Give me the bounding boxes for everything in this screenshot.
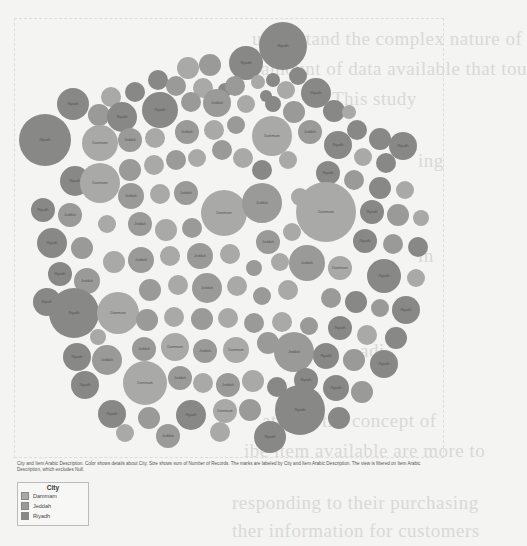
legend-item-riyadh[interactable]: Riyadh <box>18 511 88 521</box>
bubble-mark[interactable] <box>252 160 272 180</box>
bubble-mark[interactable] <box>212 140 232 160</box>
bubble-mark[interactable] <box>164 307 184 327</box>
legend-item-dammam[interactable]: Dammam <box>18 491 88 501</box>
bubble-mark[interactable] <box>300 317 318 335</box>
bubble-mark[interactable] <box>266 73 280 87</box>
bubble-label: Riyadh <box>116 115 127 119</box>
bubble-mark[interactable] <box>148 70 168 90</box>
bubble-mark[interactable] <box>119 159 141 181</box>
bubble-mark[interactable] <box>343 349 365 371</box>
bubble-mark[interactable] <box>376 153 396 173</box>
bubble-mark[interactable] <box>272 312 292 332</box>
bubble-mark[interactable] <box>408 237 428 257</box>
bubble-mark[interactable] <box>145 128 165 148</box>
bubble-label: Jeddah <box>124 138 136 142</box>
bubble-label: Jeddah <box>262 240 274 244</box>
bubble-mark[interactable] <box>125 82 145 102</box>
bubble-label: Jeddah <box>256 201 268 205</box>
bubble-mark[interactable] <box>199 54 221 76</box>
bubble-mark[interactable] <box>242 370 264 392</box>
bubble-mark[interactable] <box>98 215 116 233</box>
bubble-label: Dammam <box>318 210 334 214</box>
bubble-mark[interactable] <box>277 81 295 99</box>
bubble-mark[interactable] <box>88 104 110 126</box>
bubble-mark[interactable] <box>138 407 160 429</box>
bubble-mark[interactable] <box>227 116 245 134</box>
bubble-mark[interactable] <box>385 327 407 349</box>
bubble-mark[interactable] <box>188 149 206 167</box>
bubble-mark[interactable] <box>253 287 271 305</box>
bubble-mark[interactable] <box>246 260 262 276</box>
bubble-mark[interactable] <box>116 424 134 442</box>
bubble-mark[interactable] <box>233 148 253 168</box>
bubble-mark[interactable] <box>371 299 389 317</box>
bubble-label: Riyadh <box>400 308 411 312</box>
bubble-mark[interactable] <box>351 381 373 403</box>
bubble-label: Dammam <box>264 134 280 138</box>
legend-label: Jeddah <box>33 503 51 509</box>
bubble-mark[interactable] <box>166 76 186 96</box>
bubble-mark[interactable] <box>181 92 201 112</box>
bubble-mark[interactable] <box>225 76 245 96</box>
bubble-mark[interactable] <box>193 373 213 393</box>
bubble-label: Riyadh <box>69 179 80 183</box>
bubble-mark[interactable] <box>321 288 341 308</box>
bubble-mark[interactable] <box>182 218 202 238</box>
bubble-mark[interactable] <box>103 251 125 273</box>
bubble-mark[interactable] <box>251 75 265 89</box>
bubble-mark[interactable] <box>283 101 305 123</box>
bubble-mark[interactable] <box>168 275 188 295</box>
bubble-mark[interactable] <box>271 253 289 271</box>
bubble-label: Dammam <box>216 211 232 215</box>
bubble-mark[interactable] <box>177 57 199 79</box>
bubble-mark[interactable] <box>357 325 377 345</box>
bubble-label: Riyadh <box>264 435 275 439</box>
legend-item-jeddah[interactable]: Jeddah <box>18 501 88 511</box>
bubble-mark[interactable] <box>396 181 414 199</box>
bubble-mark[interactable] <box>90 329 106 345</box>
bubble-mark[interactable] <box>347 120 367 140</box>
bubble-mark[interactable] <box>383 234 403 254</box>
bubble-mark[interactable] <box>344 170 364 190</box>
bubble-mark[interactable] <box>237 95 255 113</box>
bubble-mark[interactable] <box>227 276 247 296</box>
bubble-mark[interactable] <box>71 237 93 259</box>
bubble-mark[interactable] <box>204 120 224 140</box>
bubble-mark[interactable] <box>139 279 161 301</box>
bubble-label: Riyadh <box>320 354 331 358</box>
bubble-mark[interactable] <box>369 128 391 150</box>
bubble-label: Riyadh <box>300 378 311 382</box>
bubble-label: Riyadh <box>359 239 370 243</box>
bubble-mark[interactable] <box>150 184 170 204</box>
bubble-mark[interactable] <box>218 308 238 328</box>
bubble-mark[interactable] <box>144 155 164 175</box>
bubble-mark[interactable] <box>387 204 409 226</box>
bubble-mark[interactable] <box>289 67 307 85</box>
bubble-mark[interactable] <box>354 148 372 166</box>
bubble-mark[interactable] <box>239 399 261 421</box>
bubble-label: Riyadh <box>397 144 408 148</box>
bubble-mark[interactable] <box>413 210 429 226</box>
bubble-label: Riyadh <box>310 91 321 95</box>
bubble-label: Riyadh <box>366 210 377 214</box>
bubble-mark[interactable] <box>342 105 356 119</box>
bubble-mark[interactable] <box>369 177 391 199</box>
bubble-mark[interactable] <box>160 246 180 266</box>
bubble-mark[interactable] <box>345 291 367 313</box>
bubble-mark[interactable] <box>265 96 281 112</box>
bubble-mark[interactable] <box>244 313 264 333</box>
bubble-mark[interactable] <box>220 244 240 264</box>
bubble-mark[interactable] <box>210 422 230 442</box>
bubble-mark[interactable] <box>191 308 213 330</box>
bubble-mark[interactable] <box>328 407 350 429</box>
bubble-mark[interactable] <box>136 309 158 331</box>
bubble-mark[interactable] <box>323 100 345 122</box>
bubble-mark[interactable] <box>283 223 301 241</box>
bubble-label: Riyadh <box>154 108 165 112</box>
bubble-mark[interactable] <box>155 219 177 241</box>
bubble-mark[interactable] <box>166 150 186 170</box>
bleed-line: responding to their purchasing <box>232 492 479 514</box>
bubble-mark[interactable] <box>407 269 425 287</box>
bubble-mark[interactable] <box>278 280 298 300</box>
bubble-mark[interactable] <box>279 151 297 169</box>
